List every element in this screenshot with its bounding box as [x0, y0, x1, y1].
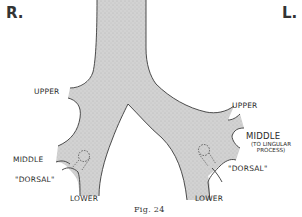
- left-lower-label: LOWER: [195, 195, 223, 203]
- left-middle-label: MIDDLE: [246, 132, 280, 141]
- figure-caption: Fig. 24: [134, 205, 165, 214]
- right-middle-label: MIDDLE: [13, 156, 43, 164]
- bronchial-tree-figure: R. L. UPPER MIDDLE "DORSAL" LOWER UPPER …: [0, 0, 302, 217]
- left-middle-note: (TO LINGULAR PROCESS): [241, 141, 301, 153]
- right-lower-label: LOWER: [70, 195, 98, 203]
- left-side-label: L.: [282, 6, 297, 21]
- left-upper-label: UPPER: [232, 102, 258, 110]
- left-middle-note-line2: PROCESS): [241, 147, 301, 153]
- right-side-label: R.: [6, 6, 24, 21]
- right-dorsal-label: "DORSAL": [15, 176, 55, 184]
- right-upper-label: UPPER: [34, 88, 60, 96]
- left-dorsal-label: "DORSAL": [228, 165, 268, 173]
